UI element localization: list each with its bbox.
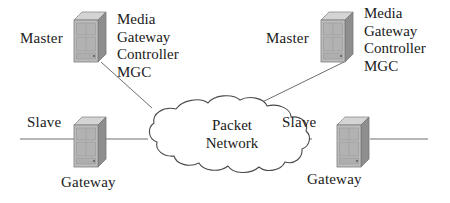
mgc-right-name-line-3: Controller: [364, 40, 426, 58]
mgc-right-name-line-1: Media: [364, 5, 426, 23]
gateway-left-name-label: Gateway: [61, 174, 116, 191]
gateway-right-server-icon[interactable]: [336, 116, 370, 168]
mgc-right-name-label: Media Gateway Controller MGC: [364, 5, 426, 75]
mgc-right-name-line-4: MGC: [364, 58, 426, 76]
mgc-left-server-icon[interactable]: [73, 11, 107, 63]
gateway-left-server-icon[interactable]: [73, 116, 107, 168]
mgc-left-role-label: Master: [20, 30, 63, 47]
mgc-left-name-line-4: MGC: [117, 64, 179, 82]
mgc-right-name-line-2: Gateway: [364, 23, 426, 41]
mgc-right-server-icon[interactable]: [320, 11, 354, 63]
mgc-right-role-label: Master: [266, 30, 309, 47]
cloud-label-line-2: Network: [186, 134, 278, 152]
gateway-right-name-label: Gateway: [307, 171, 362, 188]
mgc-left-name-line-2: Gateway: [117, 29, 179, 47]
mgc-left-name-line-3: Controller: [117, 46, 179, 64]
gateway-right-role-label: Slave: [282, 114, 316, 131]
gateway-left-role-label: Slave: [27, 114, 61, 131]
mgc-left-name-line-1: Media: [117, 11, 179, 29]
mgc-left-name-label: Media Gateway Controller MGC: [117, 11, 179, 81]
cloud-label: Packet Network: [186, 116, 278, 152]
network-diagram: Packet Network Master Media Gateway Cont…: [0, 0, 450, 203]
cloud-label-line-1: Packet: [186, 116, 278, 134]
